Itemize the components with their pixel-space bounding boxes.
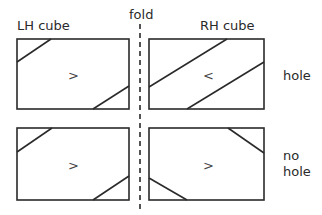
no-hole-label-line1: no [283,148,299,163]
rh-cube-label: RH cube [200,18,255,33]
lh-cube-label: LH cube [17,18,70,33]
no-hole-label-line2: hole [283,164,311,179]
direction-arrow: < [203,68,214,83]
panel-rh-hole: < [149,39,264,109]
panel-lh-hole: > [17,39,129,109]
direction-arrow: > [68,68,79,83]
hole-label: hole [283,68,311,83]
panel-lh-no-hole: > [17,128,129,200]
direction-arrow: > [68,158,79,173]
fold-label: fold [129,7,153,22]
fold-diagram: LH cube RH cube fold > < hole > > no hol… [0,0,322,215]
direction-arrow: > [203,158,214,173]
panel-rh-no-hole: > [149,128,264,200]
